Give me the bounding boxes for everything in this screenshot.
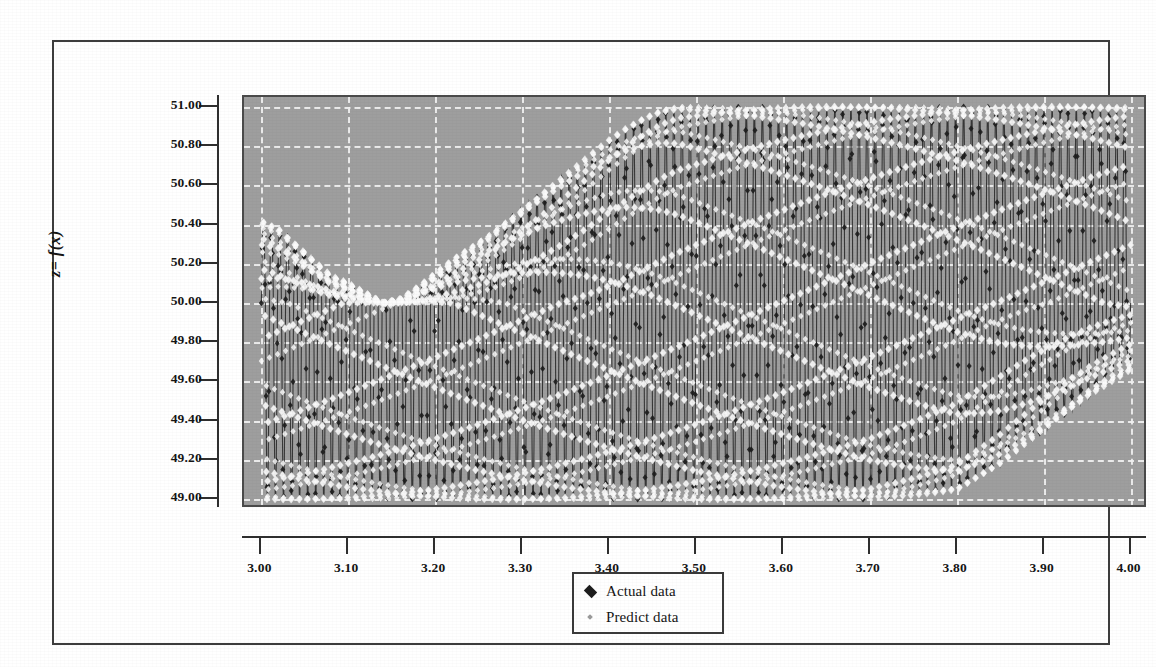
x-axis-tick	[346, 538, 348, 554]
x-axis-tick-label: 3.90	[1029, 560, 1053, 576]
x-axis-tick-label: 3.20	[421, 560, 445, 576]
y-axis-tick-label: 50.40	[132, 215, 202, 231]
x-axis-tick-label: 3.80	[943, 560, 967, 576]
x-axis-tick-label: 3.70	[856, 560, 880, 576]
legend-label-actual-data: Actual data	[606, 583, 676, 600]
y-axis-tick-label: 49.20	[132, 450, 202, 466]
chart-data-canvas	[244, 97, 1146, 507]
x-axis-tick-label: 4.00	[1116, 560, 1140, 576]
figure-frame: 49.0049.2049.4049.6049.8050.0050.2050.40…	[52, 40, 1110, 645]
y-axis-tick-label: 49.80	[132, 332, 202, 348]
y-axis-tick-label: 50.20	[132, 254, 202, 270]
legend-label-predict-data: Predict data	[606, 609, 678, 626]
y-axis-tick-label: 49.40	[132, 411, 202, 427]
chart-legend: Actual data Predict data	[572, 572, 724, 634]
x-axis-tick	[1129, 538, 1131, 554]
x-axis-tick	[607, 538, 609, 554]
x-axis-tick	[868, 538, 870, 554]
y-axis-tick-label: 49.00	[132, 489, 202, 505]
y-axis-tick-labels: 49.0049.2049.4049.6049.8050.0050.2050.40…	[132, 95, 202, 507]
legend-item-actual-data: Actual data	[582, 578, 716, 604]
legend-item-predict-data: Predict data	[582, 604, 716, 630]
x-axis-ticks	[242, 538, 1146, 554]
x-axis-tick	[1042, 538, 1044, 554]
x-axis-tick	[781, 538, 783, 554]
dot-marker-icon	[582, 609, 598, 625]
x-axis-tick-label: 3.00	[247, 560, 271, 576]
y-axis-tick-label: 51.00	[132, 97, 202, 113]
plot-area	[242, 95, 1146, 507]
x-axis-tick-label: 3.30	[508, 560, 532, 576]
x-axis-tick-label: 3.60	[769, 560, 793, 576]
x-axis-tick	[433, 538, 435, 554]
x-axis-tick	[259, 538, 261, 554]
y-axis-tick-label: 49.60	[132, 371, 202, 387]
x-axis-tick	[955, 538, 957, 554]
x-axis-tick	[694, 538, 696, 554]
x-axis-tick-label: 3.10	[334, 560, 358, 576]
y-axis-ticks	[217, 95, 219, 507]
y-axis-tick-label: 50.60	[132, 175, 202, 191]
y-axis-tick-label: 50.80	[132, 136, 202, 152]
x-axis-tick	[520, 538, 522, 554]
diamond-marker-icon	[582, 583, 598, 599]
y-axis-tick-label: 50.00	[132, 293, 202, 309]
y-axis-title: z= f(x)	[46, 230, 64, 277]
